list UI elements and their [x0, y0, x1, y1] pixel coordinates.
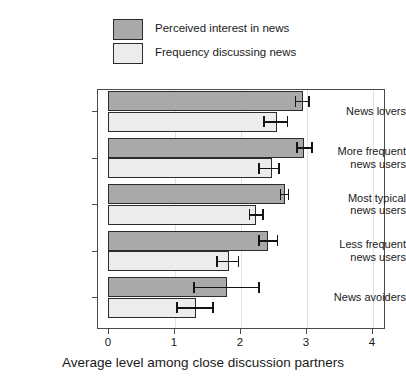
- legend-swatch-perceived-interest: [113, 19, 143, 40]
- error-bar-frequency-discussing-4: [176, 302, 214, 313]
- y-tick-label-line: news users: [320, 158, 406, 171]
- x-tick-label-3: 3: [294, 336, 318, 348]
- error-bar-perceived-interest-4: [193, 282, 260, 293]
- error-bar-perceived-interest-1: [296, 142, 313, 153]
- legend-label-frequency-discussing: Frequency discussing news: [155, 47, 296, 59]
- bar-perceived-interest-3: [108, 231, 268, 251]
- error-bar-perceived-interest-3: [258, 235, 278, 246]
- error-bar-cap-low: [176, 302, 178, 313]
- error-bar-frequency-discussing-0: [263, 116, 288, 127]
- y-tick-mark-3: [92, 251, 97, 252]
- error-bar-cap-low: [216, 256, 218, 267]
- error-bar-cap-high: [238, 256, 240, 267]
- bar-frequency-discussing-2: [108, 205, 256, 225]
- error-bar-perceived-interest-2: [280, 189, 290, 200]
- error-bar-cap-low: [258, 163, 260, 174]
- error-bar-line: [176, 307, 214, 309]
- chart-legend: Perceived interest in news Frequency dis…: [113, 18, 296, 64]
- legend-swatch-frequency-discussing: [113, 43, 143, 64]
- y-tick-mark-4: [92, 297, 97, 298]
- bar-chart-figure: Perceived interest in news Frequency dis…: [0, 0, 406, 389]
- error-bar-cap-high: [262, 209, 264, 220]
- error-bar-frequency-discussing-1: [258, 163, 279, 174]
- x-tick-mark-1: [174, 329, 175, 334]
- y-tick-label-line: Most typical: [320, 192, 406, 205]
- error-bar-line: [258, 168, 279, 170]
- y-tick-label-line: News lovers: [320, 105, 406, 118]
- y-tick-mark-0: [92, 111, 97, 112]
- y-tick-mark-2: [92, 204, 97, 205]
- x-tick-label-1: 1: [162, 336, 186, 348]
- error-bar-cap-low: [263, 116, 265, 127]
- error-bar-cap-low: [193, 282, 195, 293]
- bar-perceived-interest-2: [108, 184, 285, 204]
- x-tick-mark-3: [306, 329, 307, 334]
- error-bar-cap-high: [287, 116, 289, 127]
- x-tick-mark-2: [240, 329, 241, 334]
- error-bar-cap-high: [311, 142, 313, 153]
- y-tick-label-line: news users: [320, 204, 406, 217]
- y-tick-label-line: Less frequent: [320, 238, 406, 251]
- error-bar-line: [193, 287, 260, 289]
- y-tick-label-0: News lovers: [320, 105, 406, 118]
- x-tick-label-4: 4: [360, 336, 384, 348]
- legend-label-perceived-interest: Perceived interest in news: [155, 23, 289, 35]
- bar-perceived-interest-1: [108, 138, 304, 158]
- y-tick-mark-1: [92, 158, 97, 159]
- error-bar-frequency-discussing-2: [249, 209, 264, 220]
- error-bar-line: [263, 121, 288, 123]
- error-bar-cap-high: [212, 302, 214, 313]
- y-tick-label-line: News avoiders: [320, 291, 406, 304]
- bar-frequency-discussing-3: [108, 251, 229, 271]
- bar-frequency-discussing-0: [108, 112, 277, 132]
- error-bar-line: [258, 240, 278, 242]
- error-bar-cap-low: [249, 209, 251, 220]
- error-bar-cap-low: [296, 142, 298, 153]
- y-tick-label-1: More frequentnews users: [320, 145, 406, 170]
- y-tick-label-line: news users: [320, 251, 406, 264]
- legend-item-frequency-discussing: Frequency discussing news: [113, 42, 296, 64]
- error-bar-cap-high: [278, 163, 280, 174]
- y-tick-label-3: Less frequentnews users: [320, 238, 406, 263]
- y-tick-label-4: News avoiders: [320, 291, 406, 304]
- x-axis-title: Average level among close discussion par…: [0, 355, 406, 370]
- y-tick-label-2: Most typicalnews users: [320, 192, 406, 217]
- error-bar-cap-high: [288, 189, 290, 200]
- error-bar-cap-low: [280, 189, 282, 200]
- x-tick-mark-4: [372, 329, 373, 334]
- x-tick-label-0: 0: [96, 336, 120, 348]
- error-bar-cap-low: [258, 235, 260, 246]
- error-bar-line: [216, 261, 239, 263]
- bar-perceived-interest-0: [108, 91, 303, 111]
- legend-item-perceived-interest: Perceived interest in news: [113, 18, 296, 40]
- bar-frequency-discussing-1: [108, 158, 272, 178]
- error-bar-cap-low: [295, 96, 297, 107]
- error-bar-cap-high: [277, 235, 279, 246]
- x-tick-label-2: 2: [228, 336, 252, 348]
- y-tick-label-line: More frequent: [320, 145, 406, 158]
- error-bar-perceived-interest-0: [295, 96, 310, 107]
- x-tick-mark-0: [108, 329, 109, 334]
- error-bar-cap-high: [258, 282, 260, 293]
- error-bar-frequency-discussing-3: [216, 256, 239, 267]
- error-bar-cap-high: [308, 96, 310, 107]
